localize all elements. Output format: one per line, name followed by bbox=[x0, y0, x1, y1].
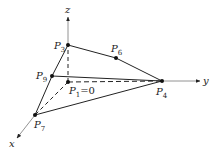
point-p1 bbox=[66, 80, 70, 84]
edge-p7-p4 bbox=[35, 81, 162, 115]
x-axis-label: x bbox=[9, 138, 15, 149]
edge-p6-p4 bbox=[116, 58, 162, 81]
point-p9 bbox=[50, 74, 54, 78]
edge-p3-p6 bbox=[68, 45, 116, 58]
x-axis bbox=[17, 115, 35, 138]
z-axis-label: z bbox=[64, 4, 71, 15]
point-p3 bbox=[66, 43, 70, 47]
edge-p1-p7 bbox=[35, 82, 68, 115]
label-p7: P7 bbox=[33, 119, 45, 133]
point-p4 bbox=[160, 79, 164, 83]
label-p1: P1=0 bbox=[68, 85, 95, 99]
label-p6: P6 bbox=[110, 43, 123, 57]
label-p4: P4 bbox=[155, 86, 168, 100]
label-p3: P3 bbox=[53, 40, 65, 54]
label-p9: P9 bbox=[35, 70, 47, 84]
point-p7 bbox=[33, 113, 37, 117]
y-axis-label: y bbox=[202, 75, 209, 86]
edge-p1-p4 bbox=[68, 81, 162, 82]
coordinate-diagram: z y x P3 P6 P4 P9 P1=0 P7 bbox=[0, 0, 219, 152]
